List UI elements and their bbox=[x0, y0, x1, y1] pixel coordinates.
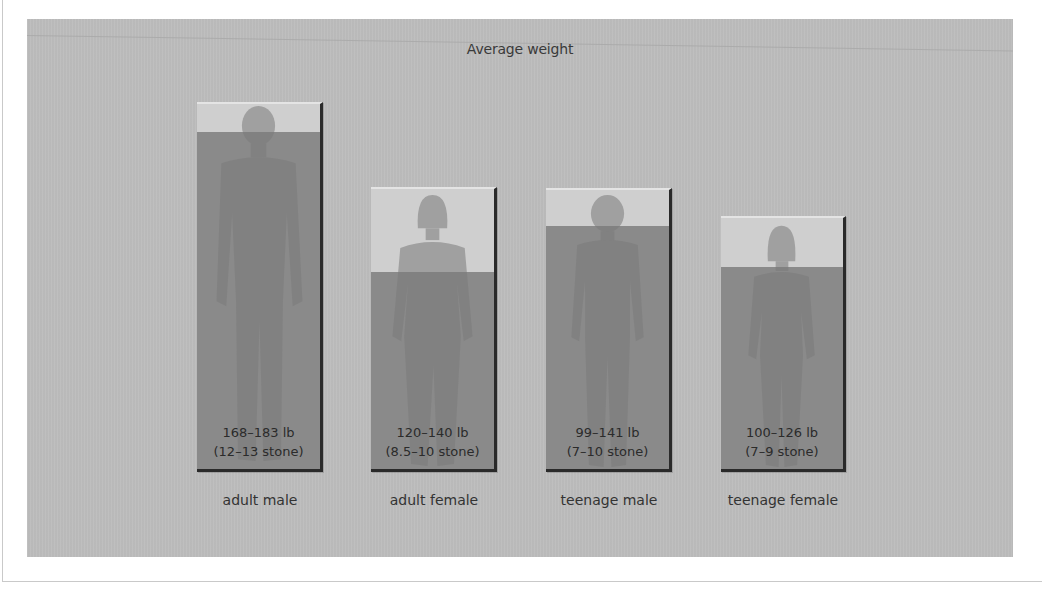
value-label: 99–141 lb (7–10 stone) bbox=[546, 423, 669, 461]
value-label: 100–126 lb (7–9 stone) bbox=[721, 423, 843, 461]
category-label: adult female bbox=[354, 492, 514, 508]
value-lb: 100–126 lb bbox=[721, 423, 843, 442]
bar-adult-female: 120–140 lb (8.5–10 stone) bbox=[371, 187, 497, 472]
category-label: adult male bbox=[180, 492, 340, 508]
value-stone: (7–10 stone) bbox=[546, 442, 669, 461]
bar-teenage-female: 100–126 lb (7–9 stone) bbox=[721, 216, 846, 472]
value-lb: 99–141 lb bbox=[546, 423, 669, 442]
value-lb: 120–140 lb bbox=[371, 423, 494, 442]
bar-teenage-male: 99–141 lb (7–10 stone) bbox=[546, 188, 672, 472]
bar-adult-male: 168–183 lb (12–13 stone) bbox=[197, 102, 323, 472]
value-stone: (7–9 stone) bbox=[721, 442, 843, 461]
value-label: 120–140 lb (8.5–10 stone) bbox=[371, 423, 494, 461]
value-stone: (12–13 stone) bbox=[197, 442, 320, 461]
category-label: teenage male bbox=[529, 492, 689, 508]
category-label: teenage female bbox=[703, 492, 863, 508]
value-stone: (8.5–10 stone) bbox=[371, 442, 494, 461]
value-label: 168–183 lb (12–13 stone) bbox=[197, 423, 320, 461]
value-lb: 168–183 lb bbox=[197, 423, 320, 442]
adult-male-silhouette-icon bbox=[197, 104, 320, 469]
chart-panel: Average weight 168–183 lb (12–13 stone) … bbox=[27, 19, 1013, 557]
chart-title: Average weight bbox=[27, 41, 1013, 57]
